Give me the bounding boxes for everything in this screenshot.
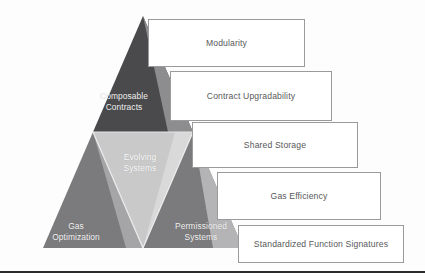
bottom-spacer <box>0 273 425 278</box>
callout-shared-storage: Shared Storage <box>192 122 358 168</box>
callout-contract-upgradability-label: Contract Upgradability <box>207 91 295 101</box>
callout-modularity-label: Modularity <box>206 38 247 48</box>
tier-label-permissioned-systems: Permissioned Systems <box>160 221 242 242</box>
callout-gas-efficiency: Gas Efficiency <box>217 172 381 220</box>
diagram-screenshot: Composable Contracts Evolving Systems Ga… <box>0 0 425 278</box>
bottom-rule <box>0 271 425 273</box>
callout-modularity: Modularity <box>148 19 305 67</box>
tier-label-composable-contracts: Composable Contracts <box>88 91 160 112</box>
callout-gas-efficiency-label: Gas Efficiency <box>271 191 328 201</box>
tier-label-evolving-systems: Evolving Systems <box>104 152 176 173</box>
callout-standardized-function-signatures: Standardized Function Signatures <box>238 225 404 263</box>
tier-label-gas-optimization: Gas Optimization <box>38 221 114 242</box>
callout-shared-storage-label: Shared Storage <box>244 140 306 150</box>
callout-standardized-function-signatures-label: Standardized Function Signatures <box>254 239 388 249</box>
callout-contract-upgradability: Contract Upgradability <box>170 71 332 121</box>
